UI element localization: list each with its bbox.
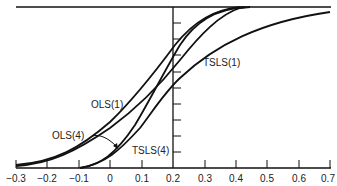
x-tick-label: 0.3 [198, 173, 212, 184]
x-tick-label: −0.1 [69, 173, 89, 184]
curve-ols4 [16, 7, 250, 166]
label-ols4: OLS(4) [52, 130, 84, 141]
label-ols1: OLS(1) [91, 99, 123, 110]
x-tick-label: 0.6 [292, 173, 306, 184]
x-tick-labels: −0.3 −0.2 −0.1 0 0.1 0.2 0.3 0.4 0.5 0.6… [6, 173, 335, 184]
chart-canvas: −0.3 −0.2 −0.1 0 0.1 0.2 0.3 0.4 0.5 0.6… [0, 0, 337, 186]
x-tick-label: −0.3 [6, 173, 26, 184]
x-tick-label: 0.7 [321, 173, 335, 184]
x-tick-label: 0.4 [229, 173, 243, 184]
x-tick-label: −0.2 [37, 173, 57, 184]
label-tsls4: TSLS(4) [132, 145, 169, 156]
curve-tsls1 [80, 12, 330, 168]
curve-tsls4 [80, 7, 245, 168]
x-tick-label: 0.5 [260, 173, 274, 184]
x-tick-label: 0 [107, 173, 113, 184]
label-tsls1: TSLS(1) [203, 57, 240, 68]
x-tick-label: 0.1 [135, 173, 149, 184]
x-tick-label: 0.2 [166, 173, 180, 184]
